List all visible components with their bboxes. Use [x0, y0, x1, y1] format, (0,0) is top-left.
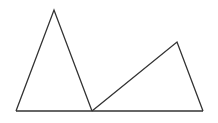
geometry-diagram: [0, 0, 218, 123]
right-triangle: [92, 42, 203, 111]
left-triangle: [16, 10, 92, 111]
